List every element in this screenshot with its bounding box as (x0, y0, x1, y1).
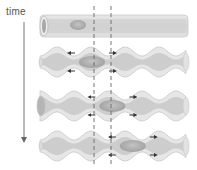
peristalsis-diagram (0, 0, 197, 170)
tube-row-3 (37, 91, 189, 121)
tube-end-left (39, 58, 43, 66)
tube-row-2 (39, 47, 189, 77)
tube-row-1 (40, 15, 188, 37)
food-bolus (120, 140, 146, 152)
tube-end-left (37, 96, 45, 116)
tube-end-right (183, 137, 189, 155)
tube-end-right (183, 97, 189, 115)
food-bolus (99, 100, 125, 112)
tube-end-right (183, 53, 189, 71)
tube-end-left (39, 142, 43, 150)
food-bolus (70, 20, 86, 30)
food-bolus (79, 56, 105, 68)
tube-row-4 (39, 131, 189, 161)
